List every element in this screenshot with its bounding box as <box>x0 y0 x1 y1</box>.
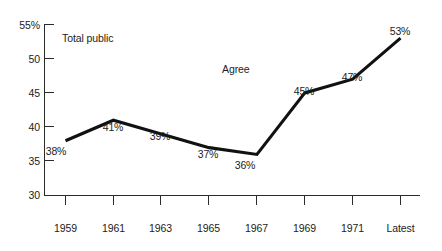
y-axis-label-30: 30 <box>8 189 40 201</box>
data-series-line-total-public <box>66 38 401 154</box>
x-axis-label-1963: 1963 <box>135 222 186 234</box>
point-value-label-1961: 41% <box>97 121 129 133</box>
x-axis-label-1967: 1967 <box>231 222 282 234</box>
y-axis-label-40: 40 <box>8 121 40 133</box>
point-value-label-1965: 37% <box>192 148 224 160</box>
y-axis-label-45: 45 <box>8 87 40 99</box>
y-axis-ticks <box>45 25 54 161</box>
point-value-label-1967: 36% <box>229 159 261 171</box>
y-axis-label-35: 35 <box>8 155 40 167</box>
line-chart-total-public-agree: 55% 50 45 40 35 30 1959 1961 1963 1965 1… <box>0 0 442 251</box>
x-axis-label-latest: Latest <box>375 222 426 234</box>
x-axis-label-1965: 1965 <box>183 222 234 234</box>
x-axis-label-1971: 1971 <box>327 222 378 234</box>
y-axis-label-50: 50 <box>8 53 40 65</box>
x-axis-label-1959: 1959 <box>40 222 91 234</box>
y-axis-label-55: 55% <box>8 19 40 31</box>
x-axis-ticks <box>66 196 401 205</box>
point-value-label-1959: 38% <box>40 145 72 157</box>
x-axis-label-1969: 1969 <box>279 222 330 234</box>
x-axis-label-1961: 1961 <box>88 222 139 234</box>
point-value-label-1963: 39% <box>144 130 176 142</box>
point-value-label-1971: 47% <box>336 71 368 83</box>
annotation-agree: Agree <box>222 63 250 75</box>
annotation-total-public: Total public <box>62 32 113 44</box>
point-value-label-1969: 45% <box>288 85 320 97</box>
point-value-label-latest: 53% <box>384 25 416 37</box>
